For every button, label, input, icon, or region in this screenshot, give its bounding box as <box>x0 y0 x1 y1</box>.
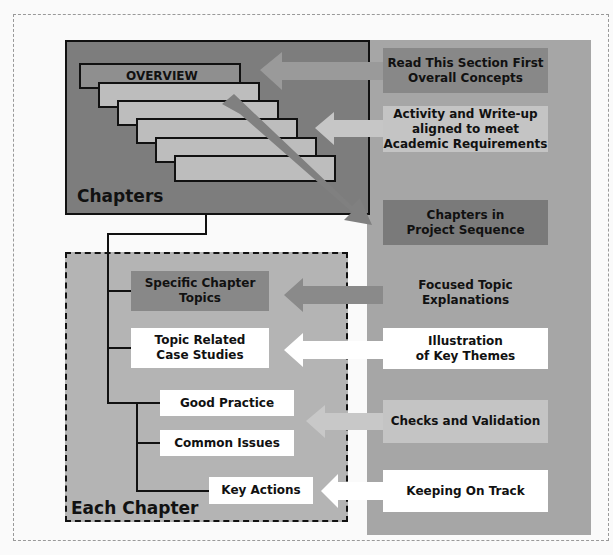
item-label: Explanations <box>418 293 512 308</box>
item-label: Good Practice <box>180 396 274 411</box>
right-item-activity: Activity and Write-upaligned to meetAcad… <box>383 106 548 152</box>
arrow-left-icon <box>321 474 383 508</box>
arrow-left-icon <box>260 52 383 90</box>
right-item-read-first: Read This Section FirstOverall Concepts <box>383 48 548 93</box>
right-item-keeping-on-track: Keeping On Track <box>383 470 548 512</box>
item-label: Chapters in <box>406 208 524 223</box>
chapter-item-common-issues: Common Issues <box>160 430 294 456</box>
item-label: Overall Concepts <box>387 71 543 86</box>
item-label: Read This Section First <box>387 56 543 71</box>
item-label: Topic Related <box>155 333 246 348</box>
arrow-left-icon <box>306 405 383 438</box>
right-item-focused-topic: Focused TopicExplanations <box>383 270 548 315</box>
item-label: Focused Topic <box>418 278 512 293</box>
item-label: Topics <box>145 291 256 306</box>
chapter-item-key-actions: Key Actions <box>209 477 313 504</box>
chapter-item-specific-topics: Specific ChapterTopics <box>131 271 269 311</box>
right-item-project-sequence: Chapters inProject Sequence <box>383 200 548 245</box>
item-label: Academic Requirements <box>384 137 548 152</box>
item-label: Keeping On Track <box>406 484 524 499</box>
chapter-item-good-practice: Good Practice <box>160 390 294 416</box>
arrow-left-icon <box>315 112 383 145</box>
item-label: Activity and Write-up <box>384 107 548 122</box>
item-label: Case Studies <box>155 348 246 363</box>
item-label: Key Actions <box>221 483 300 498</box>
right-item-illustration: Illustrationof Key Themes <box>383 328 548 369</box>
item-label: Checks and Validation <box>391 414 541 429</box>
arrow-left-icon <box>284 278 383 312</box>
right-item-checks: Checks and Validation <box>383 400 548 443</box>
arrow-diagonal-icon <box>222 94 372 225</box>
item-label: aligned to meet <box>384 122 548 137</box>
item-label: Common Issues <box>174 436 280 451</box>
arrow-left-icon <box>284 333 383 367</box>
item-label: of Key Themes <box>416 349 516 364</box>
item-label: Project Sequence <box>406 223 524 238</box>
chapter-item-case-studies: Topic RelatedCase Studies <box>131 328 269 368</box>
item-label: Specific Chapter <box>145 276 256 291</box>
item-label: Illustration <box>416 334 516 349</box>
